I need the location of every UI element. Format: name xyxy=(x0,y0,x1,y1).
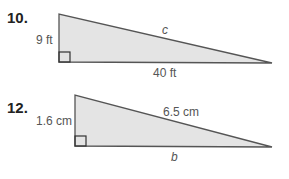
triangle-12 xyxy=(75,95,272,147)
vertical-leg-label: 9 ft xyxy=(36,33,53,47)
hypotenuse-label: c xyxy=(162,23,168,37)
triangle-10 xyxy=(59,14,272,63)
horizontal-leg-label: b xyxy=(171,150,178,164)
problem-number: 10. xyxy=(7,9,28,26)
problem-number: 12. xyxy=(7,99,28,116)
horizontal-leg-label: 40 ft xyxy=(153,66,176,80)
triangles-diagram xyxy=(0,0,289,179)
hypotenuse-label: 6.5 cm xyxy=(163,105,199,119)
vertical-leg-label: 1.6 cm xyxy=(36,114,72,128)
